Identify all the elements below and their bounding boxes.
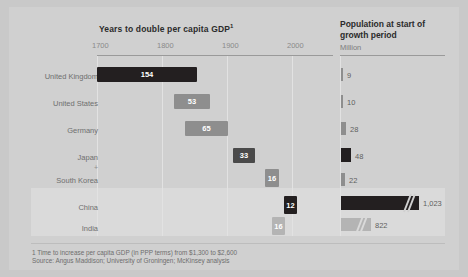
bar-value-germany: 65 xyxy=(202,124,210,133)
row-label-united-kingdom: United Kingdom xyxy=(12,72,98,81)
row-label-india: India xyxy=(12,224,98,233)
population-value-japan: 48 xyxy=(355,152,363,161)
bar-value-india: 16 xyxy=(274,222,282,231)
footer-divider xyxy=(31,243,445,244)
row-label-germany: Germany xyxy=(12,126,98,135)
footnote-source: Source: Angus Maddison; University of Gr… xyxy=(32,257,230,266)
bar-years-china: 12 xyxy=(284,196,297,214)
population-value-germany: 28 xyxy=(350,125,358,134)
bar-value-south-korea: 16 xyxy=(268,174,276,183)
population-value-india: 822 xyxy=(375,221,388,230)
bar-years-japan: 33 xyxy=(233,148,255,163)
gridline-1900 xyxy=(227,56,228,236)
population-bar-china xyxy=(341,196,419,210)
group-plus-marker: + xyxy=(12,164,98,171)
population-bar-united-kingdom xyxy=(341,68,343,81)
population-bar-south-korea xyxy=(341,173,345,186)
chart-frame: Years to double per capita GDP1 Populati… xyxy=(9,7,459,270)
bar-value-united-states: 53 xyxy=(188,97,196,106)
population-bar-india xyxy=(341,218,371,231)
bar-years-united-kingdom: 154 xyxy=(97,67,197,82)
population-bar-japan xyxy=(341,148,351,162)
bar-years-south-korea: 16 xyxy=(265,169,279,187)
population-value-united-kingdom: 9 xyxy=(347,71,351,80)
population-value-united-states: 10 xyxy=(347,98,355,107)
bar-years-india: 16 xyxy=(272,217,285,235)
gridline-1800 xyxy=(162,56,163,236)
bar-years-united-states: 53 xyxy=(174,94,210,109)
population-bar-germany xyxy=(341,122,346,135)
axis-tick-1800: 1800 xyxy=(157,41,174,50)
population-value-china: 1,023 xyxy=(423,199,442,208)
bar-years-germany: 65 xyxy=(185,121,228,136)
bar-value-united-kingdom: 154 xyxy=(141,70,154,79)
row-label-united-states: United States xyxy=(12,99,98,108)
axis-rule-left xyxy=(97,55,333,56)
population-value-south-korea: 22 xyxy=(349,176,357,185)
bar-value-japan: 33 xyxy=(240,151,248,160)
axis-rule-right xyxy=(340,55,445,56)
population-bar-united-states xyxy=(341,95,343,108)
axis-tick-2000: 2000 xyxy=(287,41,304,50)
axis-tick-1900: 1900 xyxy=(222,41,239,50)
bar-value-china: 12 xyxy=(286,201,294,210)
row-label-japan: Japan xyxy=(12,153,98,162)
row-label-china: China xyxy=(12,203,98,212)
axis-tick-1700: 1700 xyxy=(92,41,109,50)
row-label-south-korea: South Korea xyxy=(12,176,98,185)
